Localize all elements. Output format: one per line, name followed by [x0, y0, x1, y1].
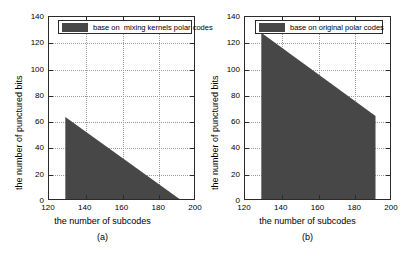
panel-b-x-axis-title: the number of subcodes	[205, 216, 410, 226]
panel-a-x-axis-title: the number of subcodes	[0, 216, 205, 226]
panel-b-xtick-label: 140	[274, 203, 287, 212]
axis-tick-x	[159, 195, 160, 199]
axis-tick-x	[355, 195, 356, 199]
panel-b-ytick-label: 80	[220, 90, 240, 99]
panel-b-y-axis-title: the number of punctured bits	[210, 75, 220, 190]
panel-b-ytick-label: 100	[220, 64, 240, 73]
axis-tick-y	[49, 148, 53, 149]
panel-a-xtick-label: 200	[188, 203, 201, 212]
axis-tick-y	[245, 148, 249, 149]
panel-a-legend-label: base on mixing kernels polar codes	[93, 23, 213, 32]
axis-tick-y	[386, 43, 390, 44]
panel-a-ytick-label: 80	[24, 90, 44, 99]
panel-a-xtick-label: 140	[78, 203, 91, 212]
axis-tick-y	[386, 175, 390, 176]
panel-b-data-area	[245, 17, 390, 199]
panel-b-axes	[244, 16, 391, 200]
panel-a-data-area	[49, 17, 194, 199]
axis-tick-y	[386, 96, 390, 97]
axis-tick-y	[245, 70, 249, 71]
panel-a-xtick-label: 120	[41, 203, 54, 212]
axis-tick-y	[49, 43, 53, 44]
axis-tick-y	[245, 43, 249, 44]
panel-a-y-axis-title: the number of punctured bits	[14, 75, 24, 190]
axis-tick-x	[319, 195, 320, 199]
panel-b-xtick-label: 180	[348, 203, 361, 212]
axis-tick-x	[282, 195, 283, 199]
panel-b-ytick-label: 40	[220, 143, 240, 152]
panel-b-xtick-label: 160	[311, 203, 324, 212]
panel-b-legend-label: base on original polar codes	[290, 23, 384, 32]
panel-a-plot-area	[49, 17, 194, 199]
axis-tick-y	[190, 148, 194, 149]
panel-b-ytick-label: 140	[220, 12, 240, 21]
panel-b-ytick-label: 60	[220, 117, 240, 126]
panel-b-ytick-label: 120	[220, 38, 240, 47]
panel-a-ytick-label: 20	[24, 169, 44, 178]
axis-tick-x	[123, 195, 124, 199]
axis-tick-y	[49, 96, 53, 97]
axis-tick-y	[245, 122, 249, 123]
panel-a-xtick-label: 160	[115, 203, 128, 212]
panel-a-legend[interactable]: base on mixing kernels polar codes	[58, 20, 192, 34]
legend-color-swatch	[62, 23, 88, 32]
panel-a-axes	[48, 16, 195, 200]
legend-color-swatch	[259, 23, 285, 32]
panel-a-ytick-label: 40	[24, 143, 44, 152]
panel-b-ytick-label: 20	[220, 169, 240, 178]
axis-tick-y	[190, 122, 194, 123]
panel-a-xtick-label: 180	[152, 203, 165, 212]
axis-tick-y	[49, 175, 53, 176]
panel-a-ytick-label: 60	[24, 117, 44, 126]
axis-tick-y	[386, 122, 390, 123]
figure-two-panel-chart: the number of punctured bits 140 120 100…	[0, 0, 410, 258]
panel-a-subcaption: (a)	[0, 232, 205, 242]
panel-a-ytick-label: 140	[24, 12, 44, 21]
axis-tick-y	[49, 122, 53, 123]
axis-tick-y	[190, 175, 194, 176]
panel-b-plot-area	[245, 17, 390, 199]
panel-b-legend[interactable]: base on original polar codes	[255, 20, 383, 34]
panel-b-xtick-label: 120	[237, 203, 250, 212]
axis-tick-x	[86, 195, 87, 199]
panel-b-subcaption: (b)	[205, 232, 410, 242]
axis-tick-y	[386, 70, 390, 71]
axis-tick-y	[190, 43, 194, 44]
axis-tick-y	[386, 148, 390, 149]
panel-b-xtick-label: 200	[384, 203, 397, 212]
axis-tick-y	[190, 96, 194, 97]
panel-b: the number of punctured bits 140 120 100…	[205, 0, 410, 258]
panel-a-ytick-label: 120	[24, 38, 44, 47]
axis-tick-y	[245, 96, 249, 97]
axis-tick-y	[49, 70, 53, 71]
panel-a: the number of punctured bits 140 120 100…	[0, 0, 205, 258]
panel-a-ytick-label: 100	[24, 64, 44, 73]
axis-tick-y	[245, 175, 249, 176]
axis-tick-y	[190, 70, 194, 71]
